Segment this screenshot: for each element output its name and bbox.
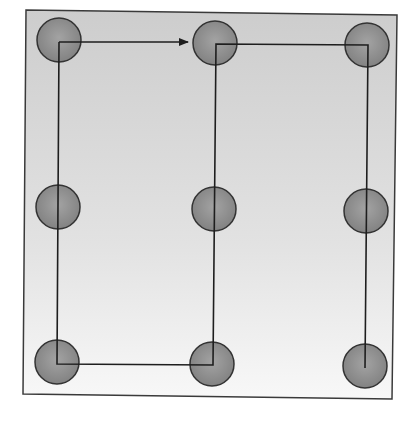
- nine-dot-diagram: [0, 0, 409, 425]
- diagram-canvas: [0, 0, 409, 425]
- dot-bottom-middle: [190, 342, 234, 386]
- dot-top-middle: [193, 21, 237, 65]
